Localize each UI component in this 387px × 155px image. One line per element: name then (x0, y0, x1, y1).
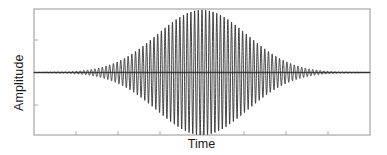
y-axis-label: Amplitude (12, 55, 26, 112)
wave-packet-figure: Amplitude Time (0, 0, 387, 155)
plot-canvas (0, 0, 387, 155)
x-axis-label: Time (0, 137, 387, 151)
